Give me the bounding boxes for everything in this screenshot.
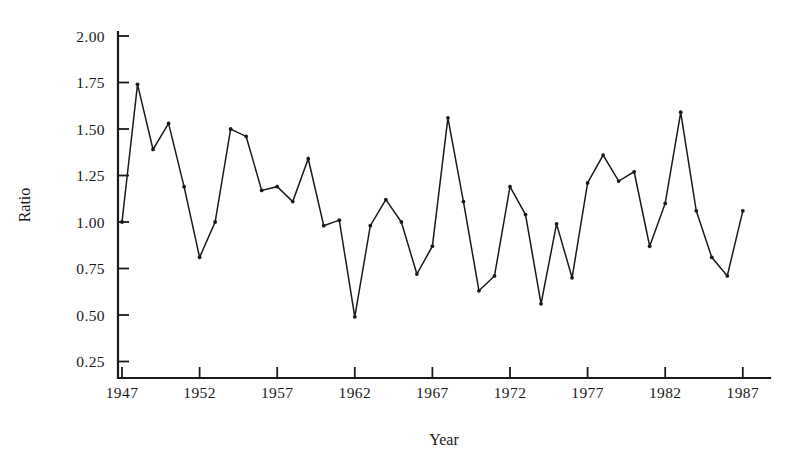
data-point [741,209,745,213]
data-point [167,122,171,126]
data-point [601,153,605,157]
data-point [462,200,466,204]
x-axis-ticks [122,367,743,378]
data-point [275,185,279,189]
y-tick-label: 0.75 [76,260,105,277]
data-point [679,110,683,114]
ratio-by-year-line-chart: 0.250.500.751.001.251.501.752.00 1947195… [0,0,794,469]
data-point [555,222,559,226]
data-point-markers [120,82,745,318]
y-tick-label: 1.00 [76,214,105,231]
data-point [260,188,264,192]
data-point [524,213,528,217]
data-point [337,218,341,222]
y-tick-label: 1.25 [76,167,105,184]
data-point [431,244,435,248]
data-point [539,302,543,306]
x-tick-label: 1947 [106,384,139,401]
x-tick-label: 1967 [416,384,449,401]
data-point [322,224,326,228]
x-tick-label: 1982 [649,384,682,401]
data-point [477,289,481,293]
data-point [368,224,372,228]
data-point [229,127,233,131]
x-tick-label: 1962 [338,384,371,401]
data-point [446,116,450,120]
data-point [291,200,295,204]
data-point [725,274,729,278]
data-point [663,202,667,206]
data-point [648,244,652,248]
data-point [182,185,186,189]
data-point [493,274,497,278]
figure-container: 0.250.500.751.001.251.501.752.00 1947195… [0,0,794,469]
data-point [198,255,202,259]
data-point [306,157,310,161]
data-point [710,255,714,259]
y-axis-tick-labels: 0.250.500.751.001.251.501.752.00 [76,28,105,371]
y-tick-label: 0.25 [76,353,105,370]
data-point [399,220,403,224]
data-point [632,170,636,174]
x-tick-label: 1987 [726,384,759,401]
y-tick-label: 1.50 [76,121,105,138]
x-axis-tick-labels: 194719521957196219671972197719821987 [106,384,759,401]
data-series-line [122,84,743,316]
data-point [136,82,140,86]
x-axis-title: Year [429,431,459,448]
data-point [120,220,124,224]
x-tick-label: 1972 [494,384,527,401]
data-point [384,198,388,202]
y-tick-label: 1.75 [76,74,105,91]
data-point [586,181,590,185]
y-tick-label: 0.50 [76,307,105,324]
data-point [617,179,621,183]
x-tick-label: 1977 [571,384,604,401]
data-point [213,220,217,224]
data-point [415,272,419,276]
y-axis-title: Ratio [16,188,33,223]
y-axis-ticks [118,36,129,362]
data-point [151,148,155,152]
data-point [570,276,574,280]
data-point [508,185,512,189]
y-tick-label: 2.00 [76,28,105,45]
x-tick-label: 1952 [183,384,216,401]
x-tick-label: 1957 [261,384,294,401]
data-point [694,209,698,213]
data-point [244,135,248,139]
data-point [353,315,357,319]
